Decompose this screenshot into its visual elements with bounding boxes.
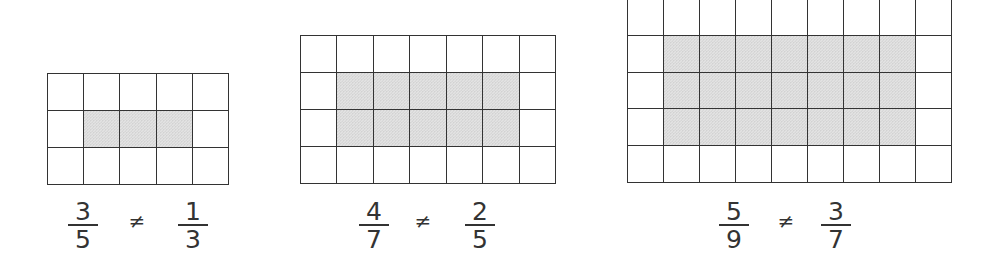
grid-cell bbox=[483, 36, 519, 73]
grid-cell-shaded bbox=[700, 109, 736, 146]
grid-cell bbox=[844, 0, 880, 36]
grid-cell-shaded bbox=[664, 109, 700, 146]
grid-cell-shaded bbox=[736, 109, 772, 146]
grid-cell bbox=[520, 110, 556, 147]
grid-cell bbox=[520, 147, 556, 184]
grid-cell bbox=[916, 0, 952, 36]
grid-cell bbox=[483, 147, 519, 184]
grid-cell bbox=[916, 146, 952, 183]
numerator: 3 bbox=[828, 199, 844, 224]
grid-cell bbox=[880, 0, 916, 36]
grid-cell bbox=[48, 148, 84, 185]
numerator: 5 bbox=[726, 199, 742, 224]
grid-cell bbox=[844, 146, 880, 183]
grid-cell-shaded bbox=[844, 73, 880, 110]
grid-cell-shaded bbox=[880, 109, 916, 146]
grid-cell bbox=[628, 109, 664, 146]
fraction-grids-figure: 3 5 ≠ 1 3 4 7 ≠ 2 5 5 9 ≠ bbox=[0, 0, 992, 271]
grid-cell bbox=[700, 0, 736, 36]
grid-cell bbox=[337, 147, 373, 184]
grid-cell-shaded bbox=[447, 73, 483, 110]
grid-cell bbox=[301, 73, 337, 110]
grid-cell bbox=[736, 146, 772, 183]
grid-cell-shaded bbox=[880, 36, 916, 73]
grid-cell-shaded bbox=[844, 109, 880, 146]
grid-cell-shaded bbox=[157, 111, 193, 148]
grid-5x3 bbox=[47, 73, 229, 185]
grid-cell-shaded bbox=[700, 36, 736, 73]
grid-cell bbox=[48, 74, 84, 111]
grid-cell-shaded bbox=[772, 73, 808, 110]
grid-cell-shaded bbox=[374, 73, 410, 110]
grid-cell bbox=[193, 111, 229, 148]
grid-cell bbox=[447, 36, 483, 73]
grid-cell bbox=[664, 0, 700, 36]
grid-cell bbox=[808, 146, 844, 183]
grid-cell-shaded bbox=[844, 36, 880, 73]
grid-cell bbox=[157, 148, 193, 185]
grid-cell-shaded bbox=[337, 73, 373, 110]
grid-cell bbox=[628, 36, 664, 73]
grid-cell-shaded bbox=[700, 73, 736, 110]
grid-9x5 bbox=[627, 0, 952, 183]
grid-cell bbox=[193, 74, 229, 111]
grid-cell bbox=[374, 36, 410, 73]
grid-cell bbox=[337, 36, 373, 73]
grid-cell-shaded bbox=[120, 111, 156, 148]
grid-cell-shaded bbox=[374, 110, 410, 147]
grid-cell bbox=[84, 148, 120, 185]
grid-cell bbox=[301, 110, 337, 147]
grid-cell bbox=[410, 147, 446, 184]
grid-cell-shaded bbox=[736, 36, 772, 73]
grid-cell bbox=[916, 36, 952, 73]
grid-cell-shaded bbox=[447, 110, 483, 147]
fraction-right: 3 7 bbox=[818, 199, 854, 252]
grid-cell-shaded bbox=[808, 36, 844, 73]
grid-cell-shaded bbox=[808, 109, 844, 146]
grid-cell bbox=[193, 148, 229, 185]
grid-cell bbox=[664, 146, 700, 183]
grid-cell bbox=[520, 73, 556, 110]
grid-cell bbox=[880, 146, 916, 183]
grid-cell bbox=[808, 0, 844, 36]
not-equal-symbol: ≠ bbox=[776, 211, 796, 231]
fraction-left: 5 9 bbox=[716, 199, 752, 252]
grid-cell bbox=[916, 73, 952, 110]
denominator: 9 bbox=[726, 227, 742, 252]
grid-cell bbox=[48, 111, 84, 148]
grid-cell bbox=[700, 146, 736, 183]
grid-cell-shaded bbox=[483, 73, 519, 110]
grid-cell-shaded bbox=[808, 73, 844, 110]
grid-7x4 bbox=[300, 35, 556, 184]
grid-cell-shaded bbox=[772, 109, 808, 146]
grid-cell bbox=[84, 74, 120, 111]
grid-cell-shaded bbox=[736, 73, 772, 110]
grid-cell-shaded bbox=[483, 110, 519, 147]
grid-cell bbox=[157, 74, 193, 111]
grid-cell bbox=[628, 73, 664, 110]
grid-cell bbox=[772, 146, 808, 183]
grid-cell bbox=[628, 0, 664, 36]
grid-cell-shaded bbox=[410, 110, 446, 147]
grid-cell bbox=[772, 0, 808, 36]
grid-cell bbox=[628, 146, 664, 183]
grid-cell bbox=[120, 74, 156, 111]
grid-cell-shaded bbox=[880, 73, 916, 110]
grid-cell bbox=[447, 147, 483, 184]
grid-cell-shaded bbox=[664, 73, 700, 110]
grid-cell bbox=[301, 147, 337, 184]
grid-cell-shaded bbox=[772, 36, 808, 73]
grid-cell bbox=[520, 36, 556, 73]
grid-cell-shaded bbox=[337, 110, 373, 147]
inequality-label-3: 5 9 ≠ 3 7 bbox=[0, 199, 992, 259]
grid-cell-shaded bbox=[84, 111, 120, 148]
denominator: 7 bbox=[828, 227, 844, 252]
grid-cell bbox=[736, 0, 772, 36]
grid-cell-shaded bbox=[664, 36, 700, 73]
grid-cell bbox=[410, 36, 446, 73]
grid-cell bbox=[301, 36, 337, 73]
grid-cell bbox=[120, 148, 156, 185]
grid-cell bbox=[374, 147, 410, 184]
grid-cell bbox=[916, 109, 952, 146]
grid-cell-shaded bbox=[410, 73, 446, 110]
